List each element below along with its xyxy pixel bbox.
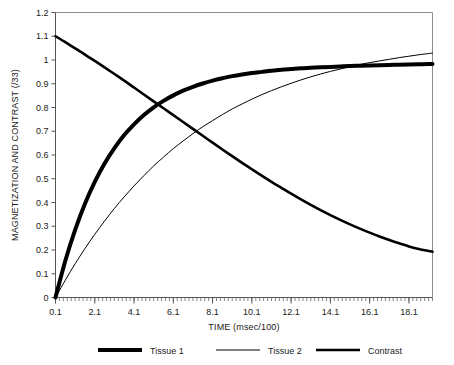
- legend-label-contrast: Contrast: [368, 346, 403, 356]
- y-axis-tick-labels: 00.10.20.30.40.50.60.70.80.911.11.2: [36, 8, 49, 303]
- legend-item-tissue-2[interactable]: Tissue 2: [216, 346, 302, 356]
- y-axis-ticks: [52, 13, 56, 298]
- y-tick-label: 0.4: [36, 198, 49, 208]
- data-series-group: [56, 36, 433, 297]
- x-tick-label: 0.1: [49, 307, 62, 317]
- x-tick-label: 8.1: [206, 307, 219, 317]
- y-tick-label: 0.9: [36, 79, 49, 89]
- legend-item-tissue-1[interactable]: Tissue 1: [98, 346, 184, 356]
- legend-label-tissue-2: Tissue 2: [268, 346, 302, 356]
- y-tick-label: 1: [43, 55, 48, 65]
- series-line-tissue-2: [56, 53, 433, 297]
- y-tick-label: 0.2: [36, 245, 49, 255]
- series-line-tissue-1: [56, 64, 433, 297]
- x-axis-tick-labels: 0.12.14.16.18.110.112.114.116.118.1: [49, 307, 417, 317]
- legend-label-tissue-1: Tissue 1: [150, 346, 184, 356]
- y-tick-label: 0.8: [36, 103, 49, 113]
- x-axis-title: TIME (msec/100): [208, 322, 279, 332]
- x-tick-label: 2.1: [89, 307, 102, 317]
- y-tick-label: 1.1: [36, 31, 49, 41]
- chart-svg: 00.10.20.30.40.50.60.70.80.911.11.2 0.12…: [0, 0, 454, 365]
- chart-legend: Tissue 1Tissue 2Contrast: [98, 346, 403, 356]
- y-tick-label: 0.5: [36, 174, 49, 184]
- x-tick-label: 14.1: [322, 307, 340, 317]
- x-tick-label: 18.1: [400, 307, 418, 317]
- x-tick-label: 12.1: [282, 307, 300, 317]
- y-tick-label: 1.2: [36, 8, 49, 18]
- y-tick-label: 0.7: [36, 126, 49, 136]
- legend-item-contrast[interactable]: Contrast: [316, 346, 403, 356]
- y-tick-label: 0: [43, 293, 48, 303]
- y-tick-label: 0.3: [36, 221, 49, 231]
- x-axis-ticks: [56, 298, 433, 304]
- x-tick-label: 6.1: [167, 307, 180, 317]
- y-tick-label: 0.1: [36, 269, 49, 279]
- chart-container: 00.10.20.30.40.50.60.70.80.911.11.2 0.12…: [0, 0, 454, 365]
- x-tick-label: 16.1: [361, 307, 379, 317]
- series-line-contrast: [56, 36, 433, 251]
- y-axis-title: MAGNETIZATION AND CONTRAST (/33): [10, 69, 20, 241]
- y-tick-label: 0.6: [36, 150, 49, 160]
- x-tick-label: 10.1: [243, 307, 261, 317]
- x-tick-label: 4.1: [128, 307, 141, 317]
